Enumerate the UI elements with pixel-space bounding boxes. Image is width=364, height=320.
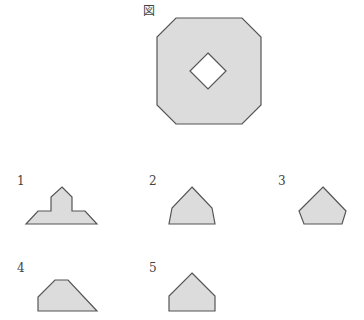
option-5-label: 5 <box>149 261 157 275</box>
main-octagon-shape <box>157 18 261 124</box>
option-5-shape <box>169 273 215 311</box>
option-2-label: 2 <box>149 174 157 188</box>
figure-canvas <box>0 0 364 320</box>
option-2-shape <box>169 187 215 224</box>
option-1-shape <box>26 187 97 224</box>
option-1-label: 1 <box>17 174 25 188</box>
option-3-label: 3 <box>278 174 286 188</box>
option-4-shape <box>38 280 97 311</box>
option-4-label: 4 <box>17 261 25 275</box>
option-3-shape <box>299 187 346 224</box>
